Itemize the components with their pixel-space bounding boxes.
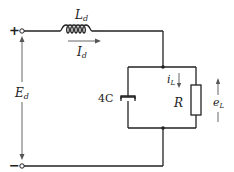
capacitor-label: 4C bbox=[98, 92, 113, 105]
inductor-current-label: Id bbox=[76, 45, 87, 60]
positive-terminal-label: + bbox=[9, 23, 20, 38]
arrow-up-small-icon bbox=[216, 78, 220, 84]
arrow-right-head-icon bbox=[95, 39, 101, 44]
positive-terminal-icon bbox=[20, 29, 24, 33]
arrow-down-head-icon bbox=[20, 154, 25, 160]
arrow-down-small-icon bbox=[177, 83, 181, 88]
junction-bottom-dot bbox=[161, 126, 165, 130]
capacitor-top-plate-icon bbox=[121, 97, 135, 101]
load-voltage-label: eL bbox=[213, 96, 225, 110]
inductor-coil-icon bbox=[60, 25, 105, 33]
junction-top-dot bbox=[161, 65, 165, 69]
resistor-icon bbox=[191, 85, 201, 115]
circuit-diagram: + − Ed Ld Id 4C R iL eL bbox=[0, 0, 234, 172]
negative-terminal-icon bbox=[20, 164, 24, 168]
negative-terminal-label: − bbox=[9, 158, 20, 172]
arrow-up-head-icon bbox=[20, 36, 25, 42]
source-voltage-label: Ed bbox=[14, 86, 29, 101]
inductor-label: Ld bbox=[74, 8, 88, 23]
resistor-label: R bbox=[173, 96, 183, 110]
load-current-label: iL bbox=[167, 73, 176, 87]
